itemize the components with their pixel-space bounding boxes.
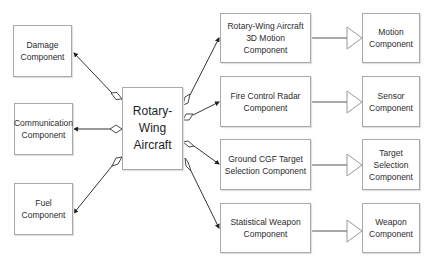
generalization-motion <box>311 27 362 49</box>
diamond-icon <box>112 157 122 166</box>
aggregation-3d-motion <box>183 38 219 105</box>
box-label-line1: Motion <box>369 26 413 38</box>
rotary-wing-3d-motion-component-box: Rotary-Wing Aircraft 3D Motion Component <box>220 13 311 63</box>
fire-control-radar-component-box: Fire Control Radar Component <box>220 76 311 127</box>
box-label-line2: Component <box>369 38 413 50</box>
triangle-icon <box>347 220 362 242</box>
box-label-line2: Selection Component <box>225 165 306 177</box>
diamond-icon <box>111 93 122 100</box>
box-label-line2: Component <box>369 228 413 240</box>
box-label-line1: Sensor <box>369 90 413 102</box>
box-label-line1: Fuel <box>22 197 66 209</box>
diamond-icon <box>183 114 193 120</box>
fuel-component-box: Fuel Component <box>14 183 73 235</box>
box-label-line2: Aircraft <box>126 137 179 154</box>
box-label-line1: Statistical Weapon <box>230 216 300 228</box>
triangle-icon <box>347 154 362 176</box>
box-label-line1: Ground CGF Target <box>225 153 306 165</box>
communication-component-box: Communication Component <box>14 103 73 155</box>
aggregation-communication <box>74 125 122 133</box>
aggregation-statistical-weapon <box>185 158 219 228</box>
box-label-line1: Weapon <box>369 216 413 228</box>
generalization-sensor <box>311 91 362 113</box>
box-label-line2: 3D Motion Component <box>224 32 307 56</box>
ground-cgf-target-selection-component-box: Ground CGF Target Selection Component <box>220 139 311 190</box>
motion-component-box: Motion Component <box>362 13 420 63</box>
aggregation-fire-control-radar <box>183 102 219 120</box>
box-label-line1: Damage <box>21 39 65 51</box>
box-label-line2: Component <box>231 102 301 114</box>
box-label-line1: Rotary-Wing Aircraft <box>224 20 307 32</box>
box-label-line2: Component <box>369 102 413 114</box>
generalization-target-selection <box>311 154 362 176</box>
box-label-line2: Component <box>21 51 65 63</box>
aggregation-fuel <box>74 157 122 213</box>
rotary-wing-aircraft-box: Rotary-Wing Aircraft <box>122 87 183 170</box>
box-label-line1: Rotary-Wing <box>126 103 179 137</box>
box-label-line2: Component <box>366 171 416 183</box>
triangle-icon <box>347 91 362 113</box>
triangle-icon <box>347 27 362 49</box>
box-label-line2: Component <box>14 129 73 141</box>
box-label-line2: Component <box>230 228 300 240</box>
box-label-line1: Target Selection <box>366 147 416 171</box>
aggregation-ground-cgf <box>183 141 219 164</box>
sensor-component-box: Sensor Component <box>362 76 420 127</box>
aggregation-damage <box>74 53 122 100</box>
diamond-icon <box>183 141 194 147</box>
statistical-weapon-component-box: Statistical Weapon Component <box>220 203 311 253</box>
diamond-icon <box>185 158 191 171</box>
generalization-weapon <box>311 220 362 242</box>
diamond-icon <box>110 125 122 133</box>
diamond-icon <box>183 94 190 105</box>
weapon-component-box: Weapon Component <box>362 203 420 253</box>
target-selection-component-box: Target Selection Component <box>362 139 420 190</box>
box-label-line1: Fire Control Radar <box>231 90 301 102</box>
box-label-line1: Communication <box>14 117 73 129</box>
damage-component-box: Damage Component <box>13 25 72 77</box>
box-label-line2: Component <box>22 209 66 221</box>
